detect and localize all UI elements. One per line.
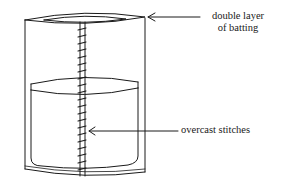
batting-arrow [148,13,200,21]
seam [78,22,86,176]
batting-label: double layer of batting [202,10,274,34]
stitches-label: overcast stitches [181,124,250,136]
batting-label-line2: of batting [202,22,274,34]
stitches-arrow [89,127,178,135]
batting-label-line1: double layer [202,10,274,22]
